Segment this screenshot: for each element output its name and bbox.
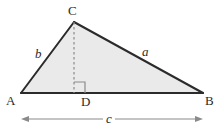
dimension-arrowhead-right bbox=[195, 116, 203, 122]
triangle-diagram-svg bbox=[0, 0, 220, 128]
vertex-label-b: B bbox=[205, 94, 214, 107]
dimension-arrowhead-left bbox=[21, 116, 29, 122]
vertex-label-d: D bbox=[81, 95, 90, 108]
vertex-label-a: A bbox=[6, 94, 15, 107]
side-label-c: c bbox=[103, 112, 115, 125]
geometry-figure: C A B D b a c bbox=[0, 0, 220, 128]
side-label-a: a bbox=[142, 45, 149, 58]
vertex-label-c: C bbox=[68, 4, 77, 17]
side-label-b: b bbox=[35, 47, 42, 60]
